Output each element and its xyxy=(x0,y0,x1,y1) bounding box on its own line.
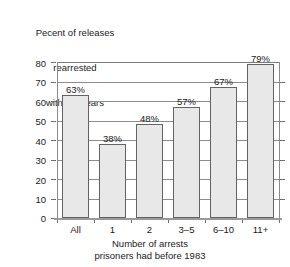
x-axis-caption-line-2: prisoners had before 1983 xyxy=(40,250,260,262)
y-axis-label-70: 70 xyxy=(22,78,46,88)
gridline-40 xyxy=(57,140,279,141)
y-tick-80 xyxy=(51,62,56,63)
y-axis-label-20: 20 xyxy=(22,176,46,186)
x-axis-label-all: All xyxy=(55,224,96,235)
y-tick-right-40 xyxy=(280,140,285,141)
x-axis-caption: Number of arrests prisoners had before 1… xyxy=(40,238,260,261)
y-axis-label-60: 60 xyxy=(22,98,46,108)
y-tick-10 xyxy=(51,199,56,200)
y-tick-30 xyxy=(51,160,56,161)
y-axis-label-40: 40 xyxy=(22,137,46,147)
y-tick-70 xyxy=(51,82,56,83)
y-tick-right-60 xyxy=(280,101,285,102)
y-tick-right-70 xyxy=(280,82,285,83)
bar-value-11plus: 79% xyxy=(240,54,281,64)
y-axis-label-50: 50 xyxy=(22,117,46,127)
gridline-10 xyxy=(57,199,279,200)
gridline-30 xyxy=(57,160,279,161)
y-tick-60 xyxy=(51,101,56,102)
x-axis-caption-line-1: Number of arrests xyxy=(40,238,260,250)
x-axis-label-2: 2 xyxy=(129,224,170,235)
chart-title-line-1: Pecent of releases xyxy=(0,27,150,39)
y-tick-40 xyxy=(51,140,56,141)
x-axis-label-3-5: 3–5 xyxy=(166,224,207,235)
gridline-70 xyxy=(57,82,279,83)
bar-3-5[interactable] xyxy=(173,107,200,218)
bar-value-3-5: 57% xyxy=(166,97,207,107)
bar-value-6-10: 67% xyxy=(203,77,244,87)
bar-2[interactable] xyxy=(136,124,163,218)
y-axis-label-30: 30 xyxy=(22,156,46,166)
plot-baseline xyxy=(54,218,282,220)
y-axis-label-80: 80 xyxy=(22,59,46,69)
y-axis-label-0: 0 xyxy=(22,214,46,224)
y-tick-20 xyxy=(51,179,56,180)
y-tick-right-10 xyxy=(280,199,285,200)
bar-value-2: 48% xyxy=(129,114,170,124)
bar-value-1: 38% xyxy=(92,134,133,144)
x-axis-label-1: 1 xyxy=(92,224,133,235)
bar-chart: Pecent of releases rearrested within 3 y… xyxy=(0,0,290,267)
x-axis-label-11plus: 11+ xyxy=(240,224,281,235)
bar-value-all: 63% xyxy=(55,85,96,95)
y-tick-50 xyxy=(51,121,56,122)
bar-6-10[interactable] xyxy=(210,87,237,218)
plot-area: 63% 38% 48% 57% 67% 79% All 1 2 3–5 6–10… xyxy=(57,62,279,218)
y-tick-right-20 xyxy=(280,179,285,180)
gridline-20 xyxy=(57,179,279,180)
bar-all[interactable] xyxy=(62,95,89,218)
x-axis-label-6-10: 6–10 xyxy=(203,224,244,235)
y-tick-right-30 xyxy=(280,160,285,161)
bar-1[interactable] xyxy=(99,144,126,218)
y-tick-right-50 xyxy=(280,121,285,122)
y-axis-label-10: 10 xyxy=(22,195,46,205)
bar-11plus[interactable] xyxy=(247,64,274,218)
